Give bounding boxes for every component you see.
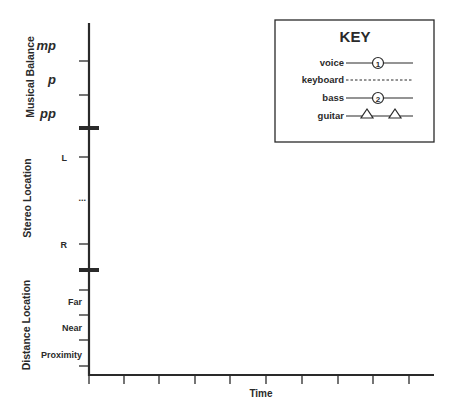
chart-canvas: Time mp p pp L ... R Far Near Proximity …: [0, 0, 451, 414]
section-title-stereo-location: Stereo Location: [21, 158, 33, 237]
tick-label-L: L: [62, 153, 68, 163]
legend-label-voice: voice: [320, 57, 344, 68]
tick-label-near: Near: [62, 323, 83, 333]
section-title-distance-location: Distance Location: [20, 280, 32, 370]
tick-label-mp: mp: [37, 38, 57, 53]
section-title-musical-balance: Musical Balance: [24, 36, 36, 118]
x-axis-label: Time: [249, 388, 273, 399]
legend-label-keyboard: keyboard: [302, 74, 344, 85]
legend-title: KEY: [340, 28, 371, 45]
voice-marker-number: 1: [376, 60, 381, 69]
tick-label-pp: pp: [39, 106, 56, 121]
x-ticks: [89, 375, 409, 384]
tick-label-proximity: Proximity: [41, 350, 82, 360]
tick-label-ellipsis: ...: [78, 193, 86, 203]
tick-label-p: p: [47, 72, 56, 87]
legend-label-guitar: guitar: [318, 110, 345, 121]
legend: KEY voice 1 keyboard bass 2 guitar: [275, 20, 434, 142]
tick-label-far: Far: [68, 297, 83, 307]
bass-marker-number: 2: [376, 95, 381, 104]
tick-label-R: R: [61, 240, 68, 250]
legend-label-bass: bass: [322, 92, 344, 103]
